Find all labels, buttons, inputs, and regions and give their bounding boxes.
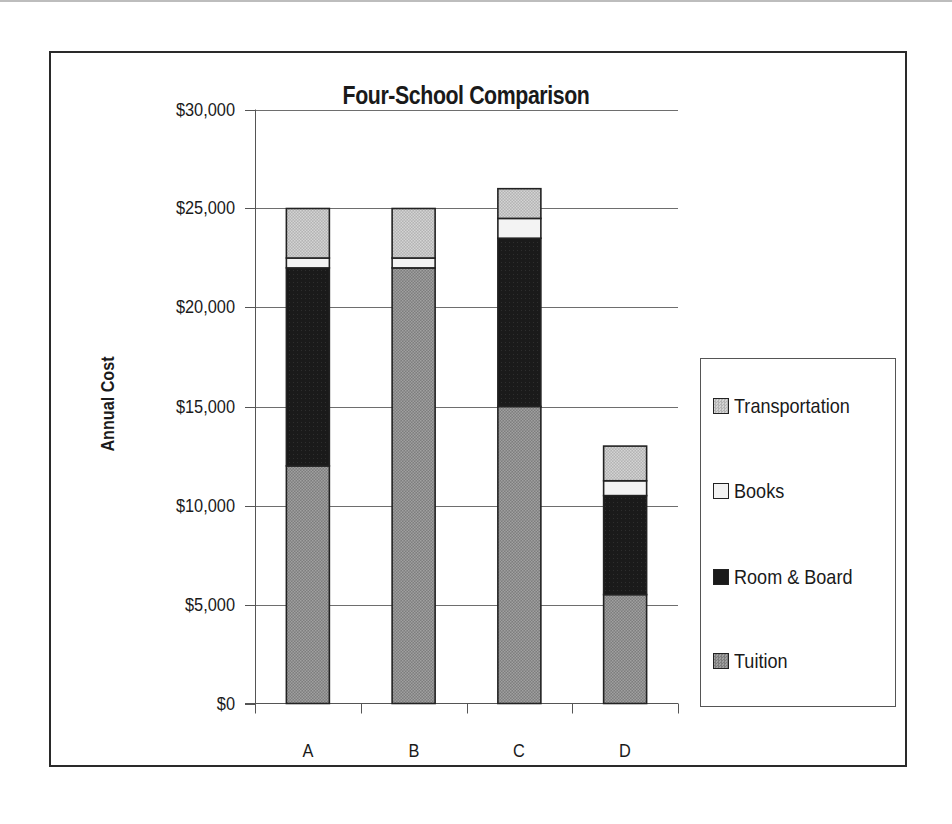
- bar-segment: [392, 258, 435, 268]
- legend-swatch-transportation-icon: [713, 398, 729, 414]
- bar-c: [498, 189, 541, 704]
- bar-segment: [604, 595, 647, 704]
- legend-item-tuition: Tuition: [713, 649, 796, 673]
- bar-segment: [604, 496, 647, 595]
- bar-segment: [604, 481, 647, 496]
- bar-segment: [286, 268, 329, 466]
- bar-segment: [498, 189, 541, 219]
- bar-segment: [286, 258, 329, 268]
- legend-label: Room & Board: [734, 565, 852, 589]
- legend-swatch-books-icon: [713, 483, 729, 499]
- bar-segment: [604, 446, 647, 481]
- legend-label: Tuition: [734, 649, 788, 673]
- bar-a: [286, 209, 329, 704]
- legend-swatch-room-board-icon: [713, 569, 729, 585]
- bar-d: [604, 446, 647, 703]
- bars: [286, 189, 646, 704]
- legend-item-transportation: Transportation: [713, 394, 869, 418]
- legend-item-room-board: Room & Board: [713, 565, 872, 589]
- bar-segment: [392, 268, 435, 704]
- bar-segment: [498, 218, 541, 238]
- bar-b: [392, 209, 435, 704]
- bar-segment: [286, 466, 329, 704]
- bar-segment: [286, 209, 329, 259]
- bar-segment: [392, 209, 435, 259]
- legend-label: Books: [734, 479, 784, 503]
- legend-label: Transportation: [734, 394, 850, 418]
- legend-swatch-tuition-icon: [713, 653, 729, 669]
- legend: Transportation Books Room & Board Tuitio…: [700, 358, 896, 707]
- legend-item-books: Books: [713, 479, 792, 503]
- bar-segment: [498, 238, 541, 406]
- bar-segment: [498, 407, 541, 704]
